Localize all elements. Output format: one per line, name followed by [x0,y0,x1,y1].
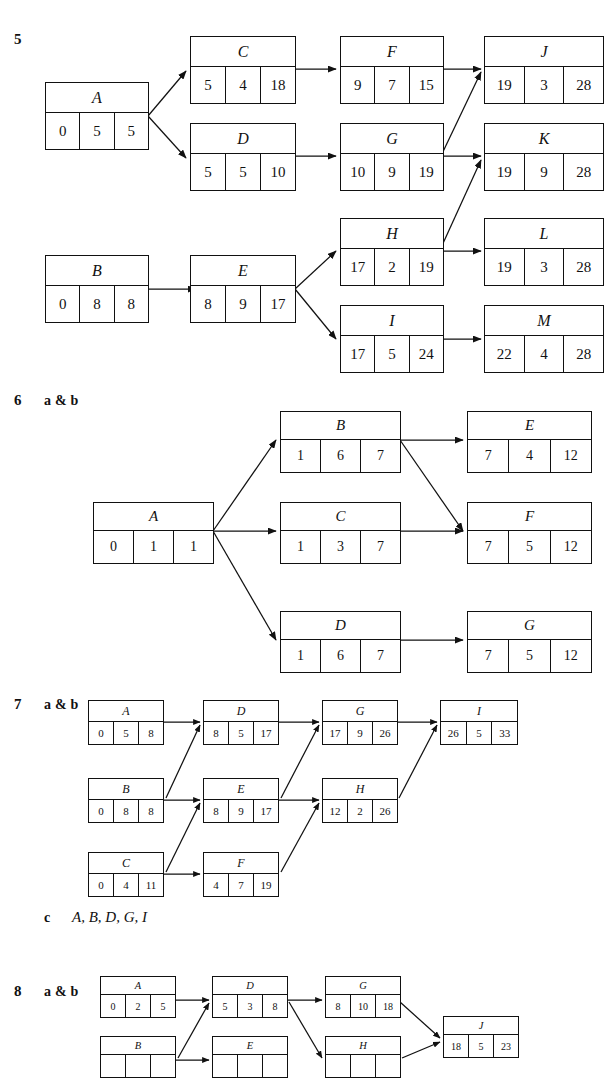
cell-early-finish: 17 [254,722,278,744]
node-q8-G: G 8 10 18 [325,976,401,1018]
node-q8-E: E [212,1036,288,1078]
cell-early-start: 5 [213,995,238,1017]
cell-early-start: 7 [468,640,509,672]
question-number-6: 6 [14,393,22,408]
node-cells: 0 2 5 [101,995,175,1017]
node-label: A [101,977,175,995]
cell-early-start: 1 [281,440,321,472]
cell-duration: 9 [226,286,261,322]
cell-duration: 5 [509,640,550,672]
cell-duration: 9 [375,154,409,190]
cell-early-start: 5 [191,154,226,190]
cell-early-finish: 17 [254,800,278,822]
node-label: F [341,37,443,67]
cell-early-finish [376,1055,400,1077]
node-cells: 17 9 26 [323,722,397,744]
cell-early-start: 7 [468,440,509,472]
cell-early-finish: 8 [263,995,287,1017]
cell-early-finish: 19 [254,874,278,896]
node-label: A [94,503,213,531]
node-q6-B: B 1 6 7 [280,411,401,473]
cell-early-start: 0 [46,113,80,149]
cell-early-finish [151,1055,175,1077]
node-cells: 26 5 33 [441,722,517,744]
question-7-parts-label: a & b [44,698,78,712]
cell-early-finish: 28 [564,249,603,285]
cell-duration: 2 [375,249,409,285]
cell-duration: 4 [509,440,550,472]
node-q5-H: H 17 2 19 [340,218,444,286]
node-cells: 7 5 12 [468,531,591,563]
cell-early-finish: 8 [115,286,148,322]
cell-early-start: 0 [101,995,126,1017]
node-cells: 19 3 28 [485,67,603,103]
node-label: E [191,256,295,286]
cell-early-start [326,1055,351,1077]
cell-early-finish: 19 [410,249,443,285]
cell-early-start: 17 [341,249,375,285]
question-6-parts-label: a & b [44,394,78,408]
node-q5-E: E 8 9 17 [190,255,296,323]
cell-early-start: 26 [441,722,467,744]
node-q7-H: H 12 2 26 [322,778,398,823]
cell-early-start: 17 [341,336,375,372]
cell-duration: 5 [229,722,254,744]
cell-early-finish: 5 [115,113,148,149]
question-7-part-c-label: c [44,911,50,925]
node-q7-A: A 0 5 8 [88,700,164,745]
cell-early-finish: 10 [261,154,295,190]
node-cells: 0 1 1 [94,531,213,563]
node-q6-D: D 1 6 7 [280,611,401,673]
cell-early-start: 4 [204,874,229,896]
node-q7-B: B 0 8 8 [88,778,164,823]
node-cells: 8 9 17 [204,800,278,822]
cell-early-finish: 28 [564,154,603,190]
node-label: D [191,124,295,154]
cell-early-finish: 8 [139,722,163,744]
node-cells: 5 3 8 [213,995,287,1017]
node-q5-F: F 9 7 15 [340,36,444,104]
node-q7-E: E 8 9 17 [203,778,279,823]
cell-early-start: 0 [89,800,114,822]
cell-duration: 9 [525,154,565,190]
cell-duration: 4 [226,67,261,103]
cell-early-finish: 11 [139,874,163,896]
node-label: L [485,219,603,249]
node-cells: 17 5 24 [341,336,443,372]
node-q5-C: C 5 4 18 [190,36,296,104]
cell-early-finish: 26 [373,722,397,744]
cell-early-start [213,1055,238,1077]
node-cells: 17 2 19 [341,249,443,285]
node-q5-K: K 19 9 28 [484,123,604,191]
cell-early-start: 19 [485,249,525,285]
cell-duration: 7 [375,67,409,103]
cell-early-start: 17 [323,722,348,744]
node-q5-A: A 0 5 5 [45,82,149,150]
node-label: D [204,701,278,722]
node-cells [101,1055,175,1077]
cell-early-start: 19 [485,154,525,190]
cell-early-finish: 33 [492,722,517,744]
cell-early-start: 22 [485,336,525,372]
node-cells: 22 4 28 [485,336,603,372]
cell-early-finish: 19 [410,154,443,190]
node-label: I [341,306,443,336]
cell-duration: 2 [348,800,373,822]
cell-duration: 9 [348,722,373,744]
cell-duration: 6 [321,640,361,672]
question-8-parts-label: a & b [44,985,78,999]
cell-duration: 5 [469,1035,494,1057]
cell-duration: 4 [525,336,565,372]
cell-early-finish: 12 [551,440,591,472]
node-label: A [89,701,163,722]
node-label: C [191,37,295,67]
node-q8-A: A 0 2 5 [100,976,176,1018]
node-cells: 7 4 12 [468,440,591,472]
cell-early-start: 5 [191,67,226,103]
cell-duration: 10 [351,995,376,1017]
cell-early-start: 1 [281,531,321,563]
node-q8-J: J 18 5 23 [443,1016,519,1058]
node-label: J [444,1017,518,1035]
cell-early-start: 7 [468,531,509,563]
